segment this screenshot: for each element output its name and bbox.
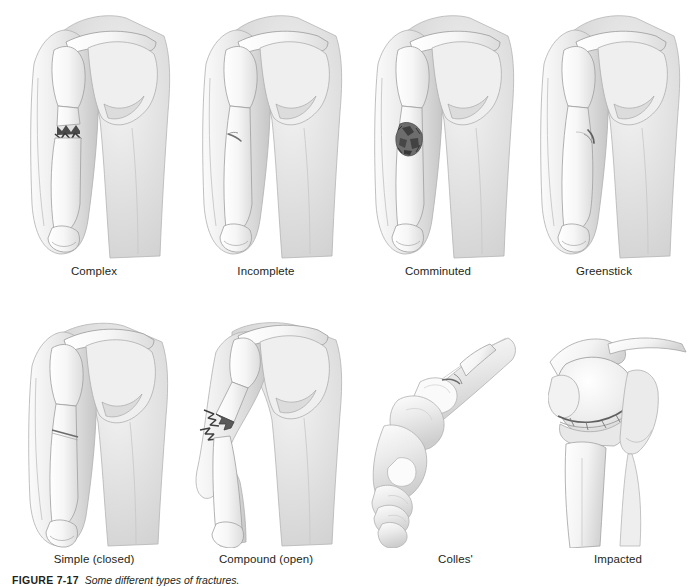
panel-impacted [548,318,688,548]
panel-label-greenstick: Greenstick [524,264,684,278]
shoulder-arm-humerus-incomplete-fracture-illustration [186,8,346,260]
shoulder-arm-humerus-compound-open-fracture-illustration [186,318,346,548]
panel-greenstick [524,8,684,260]
shoulder-arm-humerus-greenstick-fracture-illustration [524,8,684,260]
panel-label-complex: Complex [14,264,174,278]
panel-colles [368,330,543,548]
shoulder-humerus-impacted-fracture-illustration [548,318,688,548]
panel-simple-closed [14,318,174,548]
panel-label-comminuted: Comminuted [358,264,518,278]
panel-incomplete [186,8,346,260]
figure-caption: FIGURE 7-17 Some different types of frac… [12,574,676,587]
hand-wrist-colles-fracture-illustration [368,330,543,548]
panel-label-colles: Colles' [368,552,543,566]
figure-caption-number: FIGURE 7-17 [12,574,79,586]
panel-label-simple-closed: Simple (closed) [14,552,174,566]
shoulder-arm-humerus-comminuted-fracture-illustration [358,8,518,260]
panel-label-compound-open: Compound (open) [186,552,346,566]
panel-complex [14,8,174,260]
panel-comminuted [358,8,518,260]
panel-grid: Complex [0,0,688,570]
panel-compound-open [186,318,346,548]
shoulder-arm-humerus-simple-closed-fracture-illustration [14,318,174,548]
panel-label-incomplete: Incomplete [186,264,346,278]
fracture-types-figure: Complex [0,0,688,587]
shoulder-arm-humerus-complex-fracture-illustration [14,8,174,260]
panel-label-impacted: Impacted [548,552,688,566]
figure-caption-text: Some different types of fractures. [85,574,240,586]
